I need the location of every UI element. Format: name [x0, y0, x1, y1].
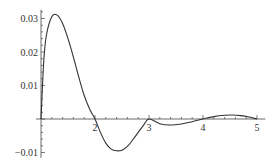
- x-axis: 2345: [36, 115, 265, 133]
- line-chart: −0.010.010.020.03 2345: [0, 0, 278, 166]
- y-tick-label: 0.02: [21, 47, 39, 58]
- y-tick-label: 0.03: [21, 13, 39, 24]
- y-tick-label: 0.01: [21, 80, 39, 91]
- x-tick-label: 5: [255, 122, 260, 133]
- x-tick-label: 3: [147, 122, 152, 133]
- y-axis: −0.010.010.020.03: [15, 10, 45, 158]
- y-tick-label: −0.01: [15, 147, 38, 158]
- x-tick-label: 4: [201, 122, 206, 133]
